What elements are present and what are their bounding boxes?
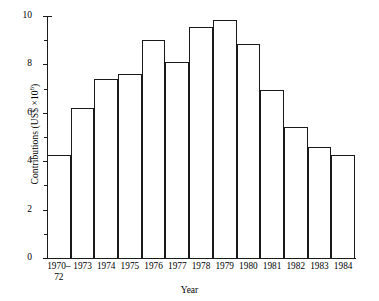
y-axis-tick-label: 4 [16, 156, 32, 166]
x-axis-tick-label: 1984 [328, 261, 358, 272]
y-axis-tick-major [43, 258, 47, 259]
bar [118, 74, 142, 258]
bar [331, 155, 355, 258]
y-axis-tick-label: 2 [16, 205, 32, 215]
bar [189, 27, 213, 258]
bar [47, 155, 71, 258]
y-axis-tick-labels: 0246810 [14, 0, 32, 301]
bar [71, 108, 95, 258]
y-axis-tick-label: 8 [16, 59, 32, 69]
y-axis-tick-label: 0 [16, 253, 32, 263]
plot-area [47, 16, 355, 258]
x-axis-line [47, 258, 356, 259]
bar [260, 90, 284, 258]
bar-chart-figure: Contributions (US$ ×106) 0246810 1970– 7… [0, 0, 379, 301]
bar [284, 127, 308, 258]
bar [237, 44, 261, 258]
x-axis-title: Year [0, 285, 379, 295]
bar [94, 79, 118, 258]
bar [213, 20, 237, 258]
y-axis-tick-label: 10 [16, 11, 32, 21]
bar [165, 62, 189, 258]
bar-series [47, 16, 355, 258]
y-axis-tick-label: 6 [16, 108, 32, 118]
bar [308, 147, 332, 258]
bar [142, 40, 166, 258]
